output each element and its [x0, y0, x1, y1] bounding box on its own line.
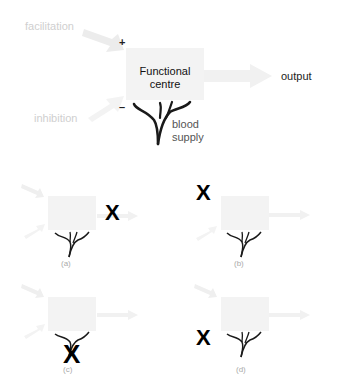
panel-d-vessel-icon	[0, 0, 337, 389]
panel-d-label: (d)	[236, 365, 246, 374]
